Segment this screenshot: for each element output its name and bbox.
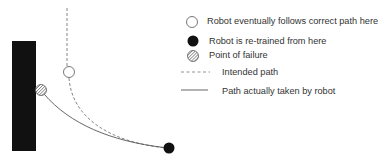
wall-obstacle (12, 41, 36, 151)
actual-path-line (44, 94, 164, 148)
retrain-point-marker-icon (164, 143, 175, 154)
legend-label-intended-path: Intended path (222, 67, 278, 78)
legend-label-retrained: Robot is re-trained from here (209, 36, 326, 47)
intended-path-line (67, 8, 166, 148)
legend-filled-circle-icon (188, 36, 199, 47)
legend-label-correct-path: Robot eventually follows correct path he… (207, 16, 378, 27)
failure-point-marker-icon (36, 85, 47, 96)
correct-path-marker-icon (64, 67, 75, 78)
legend-hatched-circle-icon (188, 51, 199, 62)
legend-label-actual-path: Path actually taken by robot (222, 86, 335, 97)
legend-open-circle-icon (187, 17, 198, 28)
legend-label-failure: Point of failure (209, 50, 268, 61)
